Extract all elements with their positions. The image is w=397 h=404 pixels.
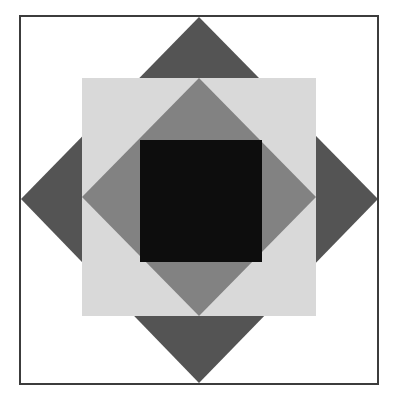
- black-center-square: [140, 140, 262, 262]
- geometric-figure: Geometric quilt block pattern Nested rot…: [0, 0, 397, 404]
- figure-canvas: Geometric quilt block pattern Nested rot…: [0, 0, 397, 404]
